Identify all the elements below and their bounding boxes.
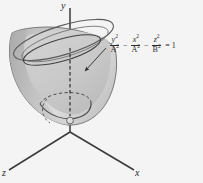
term3-denominator-power: 2 xyxy=(158,43,161,49)
equation-term-2: x2 A2 xyxy=(130,36,142,54)
term3-numerator-power: 2 xyxy=(157,33,160,39)
equation-right-hand-side: 1 xyxy=(172,41,176,50)
hyperboloid-surface xyxy=(9,11,117,125)
x-axis xyxy=(70,132,134,170)
axis-label-x: x xyxy=(135,168,139,178)
equation-operator-2: − xyxy=(144,41,149,50)
figure-canvas: y x z y2 A2 − x2 A2 − z2 B2 = 1 xyxy=(0,0,203,183)
axis-label-z: z xyxy=(2,168,6,178)
axis-label-y: y xyxy=(61,1,65,11)
vertex-marker xyxy=(67,117,74,124)
equation-equals-sign: = xyxy=(165,41,170,50)
equation-operator-1: − xyxy=(123,41,128,50)
term2-denominator-power: 2 xyxy=(137,43,140,49)
hyperboloid-diagram xyxy=(0,0,203,183)
term2-numerator-power: 2 xyxy=(136,33,139,39)
equation-term-1: y2 A2 xyxy=(109,36,121,54)
equation-term-3: z2 B2 xyxy=(151,36,162,54)
term1-numerator-power: 2 xyxy=(115,33,118,39)
term1-denominator-power: 2 xyxy=(116,43,119,49)
equation-label: y2 A2 − x2 A2 − z2 B2 = 1 xyxy=(108,36,176,54)
z-axis xyxy=(9,132,70,170)
